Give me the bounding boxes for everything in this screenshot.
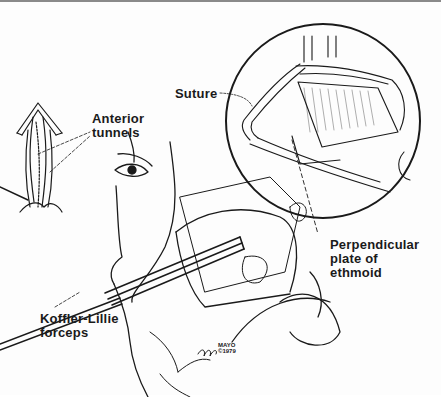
label-forceps-line1: Koffler-Lillie <box>40 312 119 326</box>
face-profile <box>111 132 340 397</box>
label-suture: Suture <box>175 87 217 101</box>
label-perpendicular-line1: Perpendicular <box>330 238 419 252</box>
label-perpendicular-plate: Perpendicular plate of ethmoid <box>330 238 419 280</box>
nasal-cavity <box>180 177 306 292</box>
label-anterior-line2: tunnels <box>92 126 144 140</box>
credit-block: MAYO ©1979 <box>218 342 236 354</box>
forceps-instrument <box>0 237 244 350</box>
leader-forceps <box>55 292 80 307</box>
lower-face <box>150 332 210 397</box>
magnified-septum <box>242 36 410 192</box>
label-forceps: Koffler-Lillie forceps <box>40 312 119 340</box>
leader-suture <box>220 93 252 106</box>
label-forceps-line2: forceps <box>40 326 119 340</box>
artist-signature <box>198 350 217 356</box>
label-perpendicular-line2: plate of <box>330 252 419 266</box>
magnified-circle <box>226 24 420 218</box>
label-perpendicular-line3: ethmoid <box>330 266 419 280</box>
label-anterior-line1: Anterior <box>92 112 144 126</box>
credit-copyright: ©1979 <box>218 348 236 354</box>
leader-anterior-2 <box>50 136 90 172</box>
label-anterior-tunnels: Anterior tunnels <box>92 112 144 140</box>
septum-cross-section-inset <box>0 103 62 212</box>
